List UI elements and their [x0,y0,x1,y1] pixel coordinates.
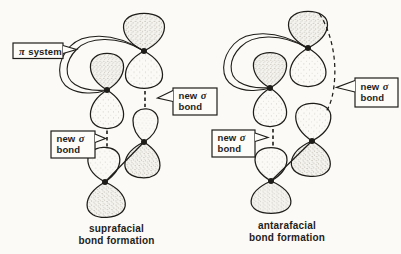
orbital-lobe-down [291,140,332,177]
orbital-lobe-up [132,108,159,143]
svg-text:bond: bond [179,101,203,112]
orbital-lobe-down [251,181,291,213]
orbital-lobe-up [124,13,165,51]
orbital-lobe-down [253,88,286,127]
svg-text:bond: bond [218,143,242,154]
svg-text:bond formation: bond formation [78,235,154,246]
orbital-node-dot [104,87,110,93]
orbital-node-dot [305,45,311,51]
svg-text:suprafacial: suprafacial [89,223,144,234]
orbital-node-dot [267,85,273,91]
orbital-lobe-up [253,53,286,88]
orbital-lobe-down [90,90,123,129]
callout-pointer [95,134,106,143]
caption-suprafacial: suprafacial bond formation [78,223,154,246]
callout-pointer [337,81,356,93]
svg-text:newσ: newσ [57,133,85,144]
suprafacial-diagram: πsystem newσ bond newσ bond suprafacial … [13,13,217,246]
callout-pointer [158,91,174,102]
new-sigma-bond-label: newσ bond [158,88,218,115]
new-sigma-bond-label: newσ bond [337,78,399,107]
figure-canvas: πsystem newσ bond newσ bond suprafacial … [0,0,401,254]
callout-pointer [255,133,268,142]
orbital-lobe-down [86,181,126,218]
orbital-lobe-down [124,141,162,179]
svg-text:bond formation: bond formation [249,232,325,243]
antarafacial-diagram: newσ bond newσ bond antarafacial bond fo… [212,11,398,243]
caption-antarafacial: antarafacial bond formation [249,220,325,243]
orbital-node-dot [141,48,147,54]
orbital-lobe-down [125,51,162,88]
svg-text:bond: bond [57,144,81,155]
orbital-node-dot [309,138,315,144]
orbital-node-dot [102,179,108,185]
orbital-diagram-figure: πsystem newσ bond newσ bond suprafacial … [0,0,401,254]
orbital-lobe-down [290,48,326,87]
pi-system-label: πsystem [13,43,77,59]
svg-text:newσ: newσ [218,132,246,143]
svg-text:antarafacial: antarafacial [258,220,316,231]
orbital-lobe-up [255,148,287,181]
orbital-lobe-up [90,53,123,90]
orbital-node-dot [141,139,147,145]
svg-text:newσ: newσ [179,90,207,101]
svg-text:bond: bond [361,92,385,103]
svg-text:newσ: newσ [361,81,389,92]
orbital-lobe-up [294,102,331,142]
orbital-node-dot [268,178,274,184]
